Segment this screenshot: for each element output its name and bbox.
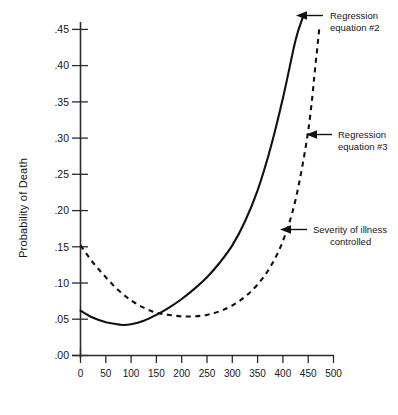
chart-canvas: .00 .05 .10 .15 .20 .25 .30 .35 .40 .45 [0, 0, 398, 415]
series-line-regression-equation-3 [81, 28, 320, 317]
y-tick-label: .45 [54, 23, 69, 35]
x-tick-label: 200 [173, 368, 190, 379]
x-tick-label: 100 [123, 368, 140, 379]
annotation-regression-2: Regression equation #2 [296, 10, 380, 33]
left-arrow-icon [280, 225, 291, 234]
annotation-line-2: controlled [330, 236, 371, 247]
annotation-severity: Severity of illness controlled [280, 224, 387, 247]
annotation-line-1: Severity of illness [313, 224, 387, 235]
x-tick-label: 300 [224, 368, 241, 379]
x-tick-label: 150 [148, 368, 165, 379]
y-tick-label: .30 [54, 132, 69, 144]
y-tick-label: .35 [54, 96, 69, 108]
x-tick-label: 350 [249, 368, 266, 379]
x-tick-label: 250 [199, 368, 216, 379]
chart-figure: Probability of Death .00 .05 .10 .15 .20 [0, 0, 398, 415]
series-line-regression-equation-2 [81, 16, 304, 325]
annotation-regression-3: Regression equation #3 [306, 129, 388, 152]
x-tick-label: 400 [275, 368, 292, 379]
x-axis-tick-labels: 0 50 100 150 200 250 300 350 400 450 500 [78, 368, 343, 379]
annotation-line-1: Regression [338, 129, 386, 140]
x-tick-label: 450 [300, 368, 317, 379]
x-tick-label: 500 [325, 368, 342, 379]
y-tick-label: .00 [54, 349, 69, 361]
x-tick-label: 0 [78, 368, 84, 379]
y-tick-label: .15 [54, 241, 69, 253]
y-tick-label: .10 [54, 277, 69, 289]
y-axis-tick-labels: .00 .05 .10 .15 .20 .25 .30 .35 .40 .45 [54, 23, 69, 361]
annotation-line-2: equation #3 [338, 141, 388, 152]
x-tick-label: 50 [100, 368, 112, 379]
y-tick-label: .20 [54, 204, 69, 216]
annotation-line-2: equation #2 [330, 22, 380, 33]
y-tick-label: .40 [54, 59, 69, 71]
y-tick-label: .25 [54, 168, 69, 180]
annotation-line-1: Regression [330, 10, 378, 21]
y-tick-label: .05 [54, 313, 69, 325]
